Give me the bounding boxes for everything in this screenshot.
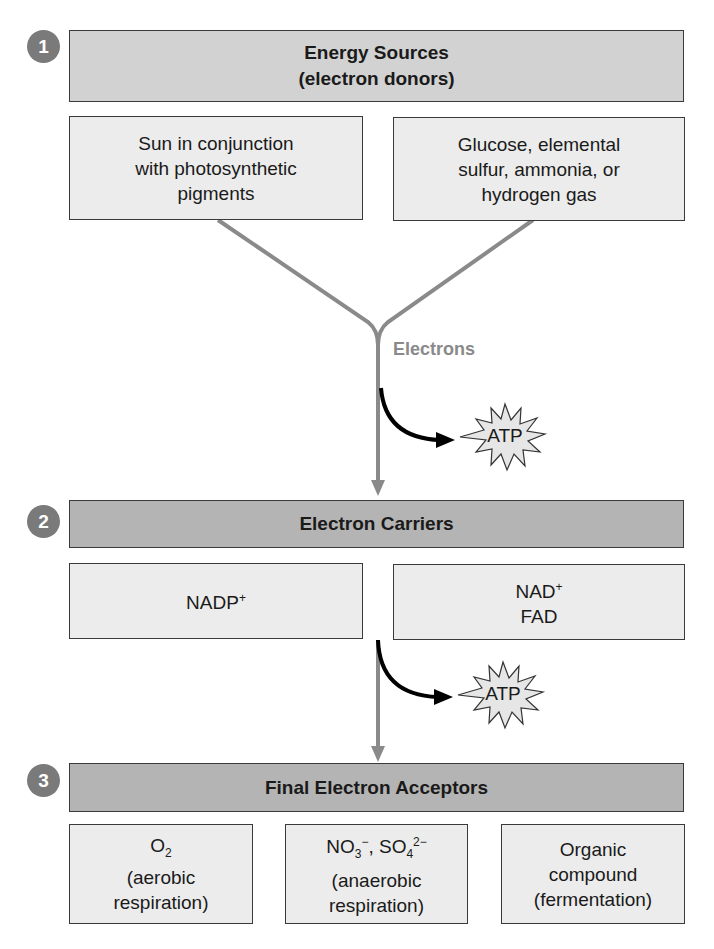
aerobic-box: O2 (aerobic respiration) (69, 824, 253, 924)
o2-label: O2 (113, 833, 208, 866)
fad-label: FAD (515, 604, 562, 629)
final-acceptors-title: Final Electron Acceptors (265, 775, 488, 801)
nitrate-sulfate-label: NO3−, SO42− (326, 830, 427, 867)
electron-carriers-title: Electron Carriers (299, 511, 453, 537)
arrowhead-2 (371, 746, 385, 762)
box-line: respiration) (326, 893, 427, 918)
box-line: (anaerobic (326, 868, 427, 893)
atp-arrow-2 (378, 640, 438, 697)
box-line: with photosynthetic (135, 156, 297, 181)
nad-label: NAD+ (515, 575, 562, 604)
electrons-label: Electrons (393, 339, 475, 360)
box-line: respiration) (113, 890, 208, 915)
energy-source-sun-box: Sun in conjunction with photosynthetic p… (69, 116, 363, 220)
box-line: Glucose, elemental (458, 132, 621, 157)
step-badge-3: 3 (27, 764, 60, 797)
anaerobic-box: NO3−, SO42− (anaerobic respiration) (285, 824, 468, 924)
energy-sources-subtitle: (electron donors) (298, 66, 454, 92)
nadp-box: NADP+ (69, 563, 363, 639)
box-line: (fermentation) (534, 887, 652, 912)
nad-fad-box: NAD+ FAD (393, 564, 685, 640)
box-line: pigments (135, 181, 297, 206)
step-badge-2: 2 (27, 505, 60, 538)
box-line: compound (534, 862, 652, 887)
atp-arrow-1 (381, 388, 440, 440)
electron-branch-left (218, 220, 378, 345)
box-line: Organic (534, 837, 652, 862)
box-line: sulfur, ammonia, or (458, 157, 621, 182)
energy-source-chemical-box: Glucose, elemental sulfur, ammonia, or h… (393, 117, 685, 221)
box-line: hydrogen gas (458, 182, 621, 207)
energy-sources-title: Energy Sources (298, 40, 454, 66)
nadp-label: NADP+ (186, 586, 246, 615)
electron-carriers-header: Electron Carriers (69, 500, 684, 548)
arrowhead-1 (371, 480, 385, 496)
final-acceptors-header: Final Electron Acceptors (69, 763, 684, 812)
box-line: Sun in conjunction (135, 131, 297, 156)
step-badge-1: 1 (27, 30, 60, 63)
atp-label-1: ATP (465, 425, 545, 447)
electron-branch-right (378, 220, 533, 345)
atp-label-2: ATP (463, 683, 543, 705)
fermentation-box: Organic compound (fermentation) (501, 824, 685, 924)
box-line: (aerobic (113, 865, 208, 890)
energy-sources-header: Energy Sources (electron donors) (69, 30, 684, 102)
